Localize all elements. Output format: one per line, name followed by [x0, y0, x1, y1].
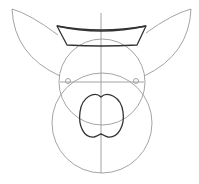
left-eye — [66, 79, 71, 84]
nose-snout — [80, 95, 124, 138]
right-ear — [144, 9, 191, 76]
pig-sketch — [0, 0, 199, 184]
drawing-canvas: Pig face sketch construction — [0, 0, 199, 184]
right-eye — [134, 79, 139, 84]
left-ear — [12, 9, 60, 76]
lower-head-circle — [52, 73, 152, 173]
